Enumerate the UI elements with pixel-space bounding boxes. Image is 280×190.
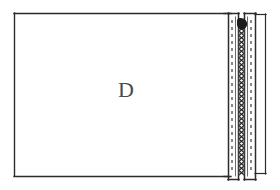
left-u-channel [228, 13, 239, 180]
sealant-blob [237, 18, 246, 29]
coil-spring-zigzag [239, 22, 244, 175]
panel-label-d: D [118, 77, 134, 102]
technical-drawing-canvas: D [0, 0, 280, 190]
right-u-channel [244, 13, 256, 180]
outer-reference-edge [255, 14, 266, 174]
sealant-blob-lobe [237, 18, 242, 23]
figure-svg: D [0, 0, 280, 190]
